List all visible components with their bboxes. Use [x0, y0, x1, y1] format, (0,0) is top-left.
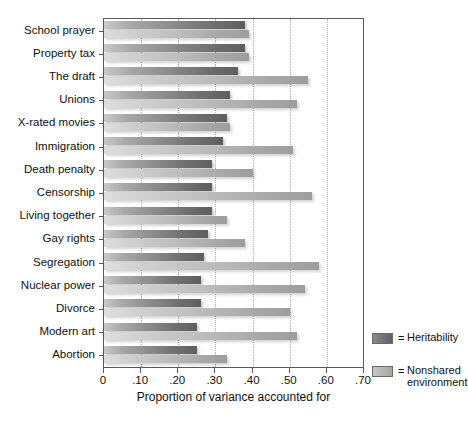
bar-heritability: [104, 276, 201, 284]
bar-heritability: [104, 346, 197, 354]
y-axis-labels: School prayerProperty taxThe draftUnions…: [0, 19, 99, 367]
y-axis-tick: [99, 100, 103, 101]
bar-group: [104, 321, 363, 343]
x-axis-tick: [326, 368, 327, 373]
bar-nonshared-environment: [104, 100, 297, 108]
y-axis-tick: [99, 193, 103, 194]
bar-heritability: [104, 21, 245, 29]
x-axis-tick: [363, 368, 364, 373]
bar-heritability: [104, 44, 245, 52]
y-axis-label: Unions: [0, 94, 99, 105]
y-axis-label: School prayer: [0, 25, 99, 36]
x-axis-tick: [140, 368, 141, 373]
y-axis-tick: [99, 31, 103, 32]
x-axis-tick: [214, 368, 215, 373]
bar-group: [104, 135, 363, 157]
x-axis-tick: [289, 368, 290, 373]
legend: = Heritability = Nonsharedenvironment: [372, 333, 452, 399]
legend-item-nonshared-environment: = Nonsharedenvironment: [372, 366, 452, 390]
bar-group: [104, 65, 363, 87]
bar-group: [104, 228, 363, 250]
bar-heritability: [104, 137, 223, 145]
legend-item-heritability: = Heritability: [372, 333, 452, 357]
x-axis-tick: [252, 368, 253, 373]
y-axis-tick: [99, 54, 103, 55]
y-axis-label: The draft: [0, 71, 99, 82]
x-axis-ticklabel: 0: [83, 374, 123, 386]
x-axis-ticklabel: .40: [232, 374, 272, 386]
legend-label-line2: environment: [407, 376, 468, 388]
x-axis-ticklabel: .50: [269, 374, 309, 386]
bar-group: [104, 344, 363, 366]
bar-heritability: [104, 114, 227, 122]
bar-heritability: [104, 183, 212, 191]
x-axis-tick: [177, 368, 178, 373]
bar-heritability: [104, 207, 212, 215]
bar-nonshared-environment: [104, 123, 230, 131]
bar-group: [104, 19, 363, 41]
bar-heritability: [104, 160, 212, 168]
bars-container: [104, 19, 363, 367]
bar-nonshared-environment: [104, 285, 305, 293]
y-axis-tick: [99, 332, 103, 333]
legend-label-heritability: Heritability: [407, 332, 455, 344]
y-axis-label: Property tax: [0, 48, 99, 59]
bar-heritability: [104, 253, 204, 261]
legend-swatch-heritability: [372, 333, 393, 344]
y-axis-tick: [99, 123, 103, 124]
bar-nonshared-environment: [104, 53, 249, 61]
bar-nonshared-environment: [104, 308, 290, 316]
bar-heritability: [104, 299, 201, 307]
y-axis-label: Immigration: [0, 141, 99, 152]
y-axis-label: Abortion: [0, 349, 99, 360]
y-axis-label: Death penalty: [0, 164, 99, 175]
legend-label-nonshared-environment: Nonsharedenvironment: [407, 365, 455, 388]
bar-heritability: [104, 67, 238, 75]
bar-nonshared-environment: [104, 239, 245, 247]
bar-group: [104, 89, 363, 111]
y-axis-tick: [99, 147, 103, 148]
y-axis-label: Divorce: [0, 303, 99, 314]
bar-heritability: [104, 91, 230, 99]
x-axis-ticklabel: .10: [120, 374, 160, 386]
y-axis-tick: [99, 309, 103, 310]
y-axis-label: Living together: [0, 210, 99, 221]
x-axis-tick: [103, 368, 104, 373]
bar-group: [104, 158, 363, 180]
y-axis-label: Segregation: [0, 257, 99, 268]
y-axis-tick: [99, 77, 103, 78]
y-axis-label: Nuclear power: [0, 280, 99, 291]
x-axis-ticklabel: .60: [306, 374, 346, 386]
y-axis-tick: [99, 355, 103, 356]
bar-group: [104, 205, 363, 227]
x-axis-title: Proportion of variance accounted for: [103, 390, 364, 404]
bar-nonshared-environment: [104, 30, 249, 38]
bar-group: [104, 112, 363, 134]
bar-nonshared-environment: [104, 169, 253, 177]
y-axis-tick: [99, 239, 103, 240]
y-axis-label: Censorship: [0, 187, 99, 198]
x-axis-ticklabel: .30: [194, 374, 234, 386]
legend-swatch-nonshared-environment: [372, 366, 393, 377]
y-axis-label: Modern art: [0, 326, 99, 337]
bar-nonshared-environment: [104, 76, 308, 84]
y-axis-tick: [99, 170, 103, 171]
bar-nonshared-environment: [104, 355, 227, 363]
bar-heritability: [104, 323, 197, 331]
y-axis-tick: [99, 286, 103, 287]
legend-equals-sign-2: =: [398, 365, 404, 377]
bar-group: [104, 297, 363, 319]
bar-nonshared-environment: [104, 146, 293, 154]
bar-group: [104, 42, 363, 64]
x-axis-ticklabel: .20: [157, 374, 197, 386]
bar-nonshared-environment: [104, 262, 319, 270]
bar-nonshared-environment: [104, 216, 227, 224]
bar-group: [104, 251, 363, 273]
bar-group: [104, 181, 363, 203]
bar-nonshared-environment: [104, 332, 297, 340]
bar-heritability: [104, 230, 208, 238]
legend-equals-sign-1: =: [398, 332, 404, 344]
bar-nonshared-environment: [104, 192, 312, 200]
bar-group: [104, 274, 363, 296]
